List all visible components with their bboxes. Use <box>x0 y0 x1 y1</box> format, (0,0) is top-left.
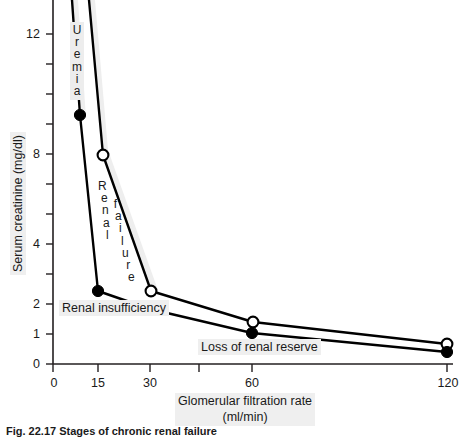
x-tick-label-60: 60 <box>242 376 262 390</box>
annotation-renal-insufficiency: Renal insufficiency <box>59 300 169 316</box>
figure-caption: Fig. 22.17 Stages of chronic renal failu… <box>6 425 217 437</box>
figure-container: 12 8 4 2 1 0 0 15 30 60 120 Serum creati… <box>0 0 471 437</box>
x-axis-title-units: (ml/min) <box>178 410 312 426</box>
annotation-uremia: U r e m i a <box>70 22 84 100</box>
renal-letter-4: l <box>106 229 109 241</box>
series-upper-curve <box>89 0 447 344</box>
uremia-letter-2: e <box>74 48 81 60</box>
y-tick-label-2: 2 <box>14 297 40 311</box>
y-axis-ticks <box>46 34 53 364</box>
x-axis-title-main: Glomerular filtration rate <box>178 394 312 410</box>
x-tick-label-0: 0 <box>47 376 61 390</box>
y-tick-label-1: 1 <box>14 327 40 341</box>
x-axis-ticks <box>53 364 447 372</box>
annotation-failure: f a i l u r e <box>110 196 121 287</box>
y-tick-label-0: 0 <box>14 357 40 371</box>
annotation-renal: R e n a l <box>96 178 109 244</box>
x-tick-label-30: 30 <box>140 376 160 390</box>
failure-letter-6: e <box>128 271 135 283</box>
annotation-loss-of-renal-reserve: Loss of renal reserve <box>198 339 321 355</box>
series-upper-markers <box>98 150 453 350</box>
y-tick-label-12: 12 <box>14 27 40 41</box>
y-axis-title: Serum creatinine (mg/dl) <box>10 132 26 275</box>
x-axis-title: Glomerular filtration rate (ml/min) <box>175 393 315 426</box>
x-tick-label-120: 120 <box>435 376 461 390</box>
x-tick-label-15: 15 <box>88 376 108 390</box>
uremia-letter-5: a <box>74 85 81 97</box>
